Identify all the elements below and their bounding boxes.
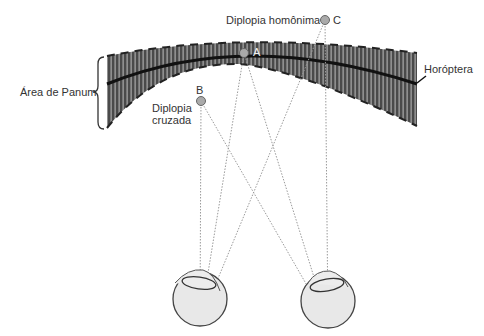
horopter-leader-line bbox=[417, 76, 426, 83]
point-a-marker bbox=[240, 49, 249, 58]
point-b-marker bbox=[197, 97, 206, 106]
point-b-label: B bbox=[196, 84, 203, 96]
panum-area-label: Área de Panum bbox=[20, 86, 96, 98]
homonymous-diplopia-label: Diplopia homônima bbox=[226, 14, 321, 26]
crossed-diplopia-label-line1: Diplopia bbox=[152, 102, 193, 114]
right-eye bbox=[301, 271, 355, 328]
panum-area-diagram: A B C Diplopia homônima Diplopia cruzada… bbox=[0, 0, 484, 336]
crossed-diplopia-label-line2: cruzada bbox=[152, 114, 192, 126]
point-a-label: A bbox=[253, 46, 261, 58]
left-eye bbox=[173, 270, 227, 326]
horopter-label: Horóptera bbox=[424, 63, 474, 75]
point-c-marker bbox=[321, 16, 330, 25]
point-c-label: C bbox=[333, 14, 341, 26]
